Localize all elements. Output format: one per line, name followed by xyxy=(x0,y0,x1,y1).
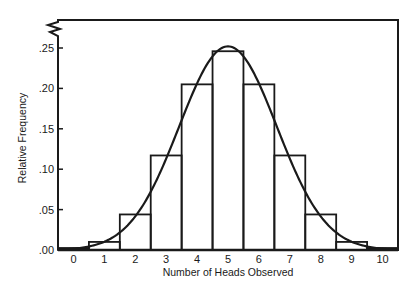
y-tick-label: .00 xyxy=(39,244,54,256)
x-tick-label: 10 xyxy=(376,253,388,265)
normal-curve xyxy=(58,46,398,249)
bar-3 xyxy=(151,155,182,250)
x-axis-label: Number of Heads Observed xyxy=(163,266,294,278)
x-axis-ticks: 012345678910 xyxy=(70,253,388,265)
y-tick-label: .20 xyxy=(39,82,54,94)
histogram-bars xyxy=(58,51,398,250)
histogram-chart: .00.05.10.15.20.25 012345678910 Number o… xyxy=(0,0,416,291)
y-axis-line xyxy=(48,20,398,250)
x-tick-label: 3 xyxy=(163,253,169,265)
x-tick-label: 0 xyxy=(70,253,76,265)
bar-7 xyxy=(274,155,305,250)
x-tick-label: 4 xyxy=(194,253,200,265)
x-tick-label: 1 xyxy=(101,253,107,265)
y-tick-label: .05 xyxy=(39,204,54,216)
x-tick-label: 8 xyxy=(318,253,324,265)
x-tick-label: 5 xyxy=(225,253,231,265)
y-tick-label: .15 xyxy=(39,123,54,135)
x-tick-label: 6 xyxy=(256,253,262,265)
y-axis-label: Relative Frequency xyxy=(16,92,28,183)
bar-8 xyxy=(305,214,336,250)
x-tick-label: 7 xyxy=(287,253,293,265)
y-tick-label: .10 xyxy=(39,163,54,175)
plot-frame xyxy=(48,20,398,250)
y-axis-ticks: .00.05.10.15.20.25 xyxy=(39,42,63,256)
bar-5 xyxy=(213,51,244,250)
x-tick-label: 9 xyxy=(349,253,355,265)
x-tick-label: 2 xyxy=(132,253,138,265)
y-tick-label: .25 xyxy=(39,42,54,54)
bar-2 xyxy=(120,214,151,250)
